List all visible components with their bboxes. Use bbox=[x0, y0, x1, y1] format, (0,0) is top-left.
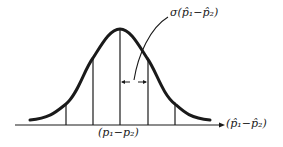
mean-label: (p₁−p₂) bbox=[98, 126, 139, 139]
sigma-label: σ(p̂₁−p̂₂) bbox=[170, 6, 218, 19]
sigma-arrow-left-icon bbox=[121, 80, 125, 84]
sigma-arrow-right-icon bbox=[143, 80, 147, 84]
x-axis-arrow-icon bbox=[219, 123, 225, 128]
sigma-leader-line bbox=[134, 17, 168, 80]
axis-label: (p̂₁−p̂₂) bbox=[226, 117, 267, 130]
